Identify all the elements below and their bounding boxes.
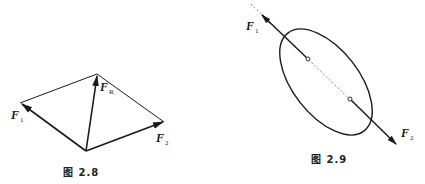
caption-fig-2-8: 图 2.8 [63,164,99,179]
parallelogram-top-left-side [20,74,97,103]
fr-label-fig-2-8: FR [100,80,114,96]
f1-label-fig-2-9: F1 [246,19,259,35]
application-point-1 [306,57,310,61]
application-point-2 [348,97,352,101]
figure-2-8-drawing [20,74,164,151]
diagram-canvas [0,0,425,184]
f2-label-fig-2-9: F2 [401,126,414,142]
fr-resultant-arrow [86,76,97,151]
f2-label-fig-2-8: F2 [156,131,169,147]
f1-vector-arrow [22,104,86,151]
f2-force-arrow [350,99,396,144]
f1-label-fig-2-8: F1 [11,108,24,124]
f1-arrowhead [262,15,270,23]
figure-2-9-drawing [251,4,397,151]
caption-fig-2-9: 图 2.9 [311,151,347,166]
f2-vector-arrow [86,122,163,151]
